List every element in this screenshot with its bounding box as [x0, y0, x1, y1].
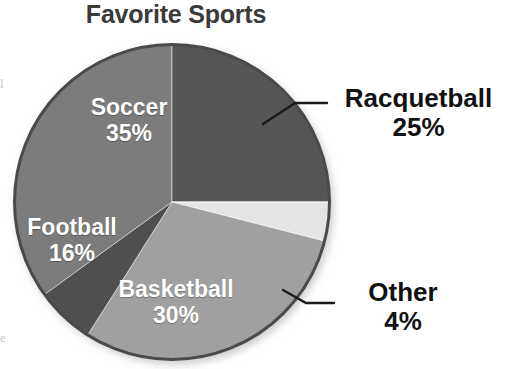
slice-value-soccer: 35%	[44, 121, 214, 147]
slice-name-other: Other	[338, 278, 468, 307]
slice-label-other: Other 4%	[338, 278, 468, 336]
slice-label-basketball: Basketball 30%	[86, 277, 266, 329]
slice-value-racquetball: 25%	[330, 113, 507, 142]
slice-value-football: 16%	[2, 241, 142, 267]
slice-label-football: Football 16%	[2, 215, 142, 267]
slice-name-basketball: Basketball	[86, 277, 266, 303]
pie-chart: Favorite Sports l e Soccer 35% Football …	[0, 0, 507, 369]
slice-name-football: Football	[2, 215, 142, 241]
slice-value-other: 4%	[338, 307, 468, 336]
slice-name-soccer: Soccer	[44, 95, 214, 121]
slice-name-racquetball: Racquetball	[330, 84, 507, 113]
slice-value-basketball: 30%	[86, 303, 266, 329]
slice-label-racquetball: Racquetball 25%	[330, 84, 507, 142]
slice-label-soccer: Soccer 35%	[44, 95, 214, 147]
